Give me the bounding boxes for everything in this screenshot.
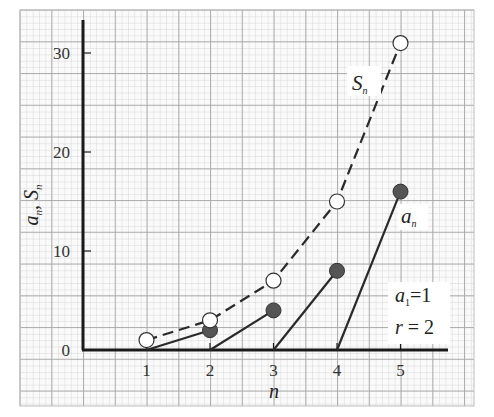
s-n-marker <box>203 313 218 328</box>
x-tick-label: 5 <box>396 361 405 380</box>
y-label-s-sub: n <box>32 184 44 190</box>
x-tick-label: 4 <box>333 361 342 380</box>
y-tick-label: 0 <box>62 341 71 360</box>
param-a1-value: =1 <box>410 284 431 306</box>
s-n-marker <box>266 273 281 288</box>
y-label-a: a <box>20 216 42 226</box>
y-tick-label: 10 <box>53 242 70 261</box>
s-n-marker <box>139 333 154 348</box>
s-n-marker <box>330 194 345 209</box>
label-a-n-sub: n <box>412 218 417 229</box>
x-axis-label: n <box>269 380 279 402</box>
x-tick-label: 1 <box>142 361 151 380</box>
label-a-n: an <box>398 204 428 230</box>
param-a1-var: a <box>395 284 405 306</box>
y-tick-label: 20 <box>53 143 70 162</box>
a-n-marker <box>393 184 408 199</box>
param-r: r = 2 <box>395 316 434 338</box>
a-n-marker <box>330 263 345 278</box>
y-axis-label: an, Sn <box>20 184 44 226</box>
y-tick-label: 30 <box>53 44 70 63</box>
param-r-var: r <box>395 316 403 338</box>
label-s-n-main: S <box>352 71 363 95</box>
label-a-n-main: a <box>401 204 412 228</box>
label-s-n-sub: n <box>363 85 368 96</box>
y-label-s: S <box>20 190 42 200</box>
x-tick-label: 2 <box>206 361 215 380</box>
label-s-n: Sn <box>347 66 381 96</box>
a-n-marker <box>266 303 281 318</box>
y-label-comma: , <box>20 200 42 210</box>
parameter-box: a1=1 r = 2 <box>388 282 450 344</box>
x-tick-label: 3 <box>269 361 278 380</box>
param-a1: a1=1 <box>395 284 431 308</box>
svg-text:an, Sn: an, Sn <box>20 184 44 226</box>
chart-canvas: 0102030 12345 an, Sn n Sn an a1=1 r = 2 <box>0 0 494 417</box>
s-n-marker <box>393 36 408 51</box>
param-r-value: = 2 <box>403 316 434 338</box>
